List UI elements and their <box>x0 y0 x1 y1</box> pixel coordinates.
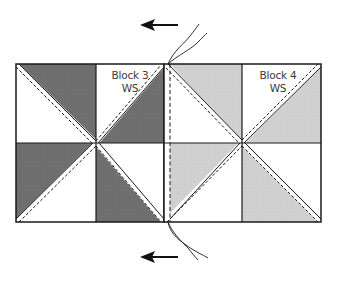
block-3-label-side: WS <box>102 82 158 95</box>
block-4-label: Block 4 WS <box>250 69 306 95</box>
thread-bottom <box>168 222 208 260</box>
block-3-label-title: Block 3 <box>102 69 158 82</box>
block-4-label-side: WS <box>250 82 306 95</box>
quilt-diagram: Block 3 WS Block 4 WS <box>0 0 337 282</box>
thread-top <box>168 24 207 64</box>
block-4-label-title: Block 4 <box>250 69 306 82</box>
diagram-canvas <box>0 0 337 282</box>
arrow-top-left-icon <box>140 19 178 31</box>
arrow-bottom-left-icon <box>140 251 178 263</box>
block-3-label: Block 3 WS <box>102 69 158 95</box>
